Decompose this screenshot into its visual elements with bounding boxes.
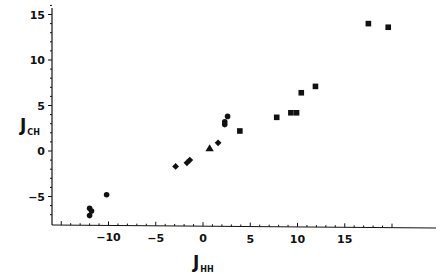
x-tick-label: 5 [246, 233, 254, 246]
x-axis-line [52, 225, 436, 228]
marker-square [237, 128, 243, 134]
y-tick-label: −5 [28, 191, 45, 204]
marker-square [298, 90, 304, 96]
marker-circle [225, 114, 231, 120]
y-tick-label: 10 [30, 54, 46, 67]
marker-circle [222, 122, 228, 128]
x-axis-label: JHH [192, 252, 214, 274]
data-markers [87, 21, 391, 219]
marker-square [274, 115, 280, 121]
x-tick-label: 15 [337, 233, 352, 246]
marker-circle [87, 213, 93, 219]
marker-diamond [172, 163, 179, 170]
x-tick-label: 0 [199, 232, 207, 245]
y-tick-label: 0 [37, 145, 45, 158]
scatter-chart: −5051015−10−5051015 JCH JHH [0, 0, 441, 274]
marker-square [385, 24, 391, 30]
marker-circle [104, 192, 110, 198]
x-tick-label: −5 [147, 232, 164, 245]
marker-square [366, 21, 372, 27]
y-tick-label: 5 [37, 100, 45, 113]
x-tick-label: −10 [96, 231, 121, 244]
marker-diamond [215, 139, 222, 146]
y-axis-label: JCH [19, 115, 40, 137]
y-tick-label: 15 [30, 9, 45, 22]
marker-square [313, 84, 319, 90]
x-tick-label: 10 [290, 233, 306, 246]
marker-triangle [205, 144, 213, 151]
marker-square [294, 110, 300, 116]
marker-square [288, 110, 294, 116]
